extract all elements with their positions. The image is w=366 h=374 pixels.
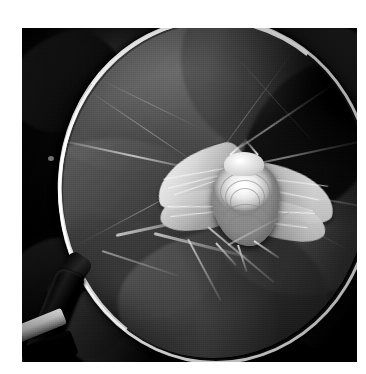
- moth-leg: [253, 240, 279, 258]
- photograph-content: [22, 28, 357, 362]
- photograph: [22, 28, 357, 362]
- figure-page: [0, 0, 366, 374]
- magnifier-handle: [22, 266, 166, 362]
- highlight-fleck: [48, 156, 54, 161]
